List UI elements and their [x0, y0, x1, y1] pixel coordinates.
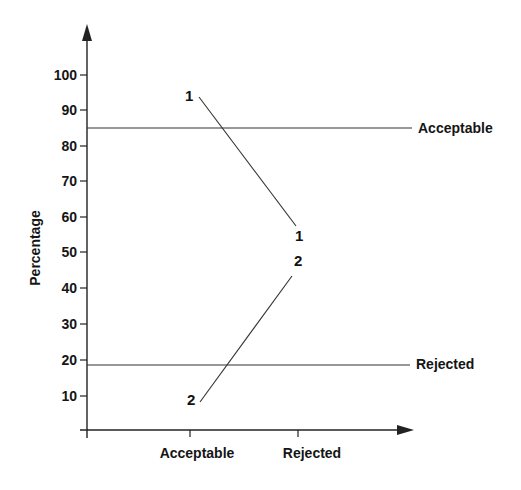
series-2-line — [200, 276, 292, 402]
x-axis: Acceptable Rejected — [80, 425, 414, 461]
reference-lines: Acceptable Rejected — [87, 120, 493, 372]
x-category-rejected: Rejected — [283, 445, 341, 461]
series-1: 1 1 — [185, 87, 303, 244]
y-tick-90: 90 — [61, 102, 77, 118]
y-tick-40: 40 — [61, 280, 77, 296]
rejected-threshold-label: Rejected — [416, 356, 474, 372]
y-axis: 100 90 80 70 60 50 40 30 20 10 Percentag… — [27, 24, 92, 438]
y-tick-60: 60 — [61, 209, 77, 225]
y-tick-30: 30 — [61, 316, 77, 332]
x-axis-arrow-icon — [397, 425, 414, 435]
y-axis-arrow-icon — [82, 24, 92, 41]
y-tick-20: 20 — [61, 352, 77, 368]
series-1-start-label: 1 — [185, 87, 193, 104]
series-1-end-label: 1 — [295, 227, 303, 244]
y-tick-50: 50 — [61, 244, 77, 260]
series-2: 2 2 — [187, 252, 302, 408]
x-category-acceptable: Acceptable — [160, 445, 235, 461]
y-axis-title: Percentage — [27, 210, 43, 286]
chart: 100 90 80 70 60 50 40 30 20 10 Percentag… — [0, 0, 521, 490]
series-2-start-label: 2 — [187, 391, 195, 408]
series-1-line — [199, 97, 296, 226]
y-tick-80: 80 — [61, 138, 77, 154]
acceptable-threshold-label: Acceptable — [418, 120, 493, 136]
y-tick-70: 70 — [61, 173, 77, 189]
y-tick-10: 10 — [61, 388, 77, 404]
series-2-end-label: 2 — [294, 252, 302, 269]
y-tick-100: 100 — [54, 67, 78, 83]
